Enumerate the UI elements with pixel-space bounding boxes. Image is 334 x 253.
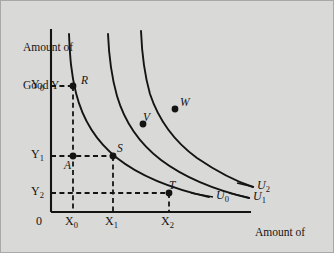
- x-tick-label-x2: X2: [161, 215, 174, 231]
- point-label-w: W: [180, 96, 190, 109]
- point-label-v: V: [143, 111, 150, 124]
- curve-label-u1: U1: [253, 190, 266, 206]
- x-axis-title-line1: Amount of: [255, 226, 305, 239]
- curve-u1: [108, 34, 249, 198]
- x-tick-label-x1: X1: [105, 215, 118, 231]
- curve-label-u0: U0: [216, 189, 229, 205]
- curve-u2: [141, 31, 253, 187]
- y-tick-label-y1: Y1: [31, 148, 44, 164]
- point-label-s: S: [117, 142, 123, 155]
- point-w: [172, 106, 179, 113]
- leader-u1: [229, 193, 250, 198]
- point-label-r: R: [81, 74, 88, 87]
- y-tick-label-y2: Y2: [31, 185, 44, 201]
- y-tick-label-y0: Y0: [31, 78, 44, 94]
- origin-label: 0: [36, 215, 42, 228]
- point-s: [110, 153, 117, 160]
- y-axis-title-line1: Amount of: [23, 41, 73, 54]
- x-tick-label-x0: X0: [65, 215, 78, 231]
- data-points: [70, 83, 179, 197]
- y-axis-title: Amount of Good Y: [23, 15, 73, 118]
- leader-u0: [191, 193, 213, 197]
- axis-lines: [51, 29, 251, 212]
- curve-u0: [69, 34, 209, 197]
- x-axis-title: Amount of Good X: [255, 200, 305, 253]
- point-label-t: T: [169, 179, 175, 192]
- point-label-a: A: [64, 159, 71, 172]
- indifference-curve-figure: Amount of Good Y Amount of Good X 0 Y0 Y…: [0, 0, 334, 253]
- indifference-curves: [69, 31, 253, 198]
